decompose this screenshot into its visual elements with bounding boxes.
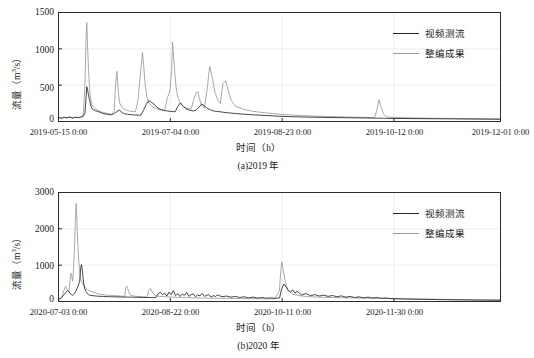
x-tick-b-3: 2020-11-30 0:00 [341, 307, 448, 317]
chart-panel-2019: 流量（m3/s） 1500 1000 500 0 视频测流 整编成果 2019-… [0, 0, 517, 178]
legend-item-video-a: 视频测流 [393, 26, 465, 40]
legend-2019: 视频测流 整编成果 [393, 26, 465, 60]
legend-2020: 视频测流 整编成果 [393, 206, 465, 240]
legend-item-video-b: 视频测流 [393, 206, 465, 220]
caption-2020: (b)2020 年 [0, 338, 517, 352]
caption-2019: (a)2019 年 [0, 158, 517, 172]
x-tick-a-3: 2019-10-12 0:00 [341, 127, 448, 137]
x-axis-label-a: 时间（h） [0, 140, 517, 154]
legend-item-compiled-b: 整编成果 [393, 226, 465, 240]
x-tick-b-0: 2020-07-03 0:00 [5, 307, 112, 317]
x-tick-b-1: 2020-08-22 0:00 [117, 307, 224, 317]
x-axis-label-b: 时间（h） [0, 320, 517, 334]
x-tick-a-4: 2019-12-01 0:00 [447, 127, 534, 137]
legend-swatch-compiled-b [393, 233, 419, 234]
chart-panel-2020: 流量（m3/s） 3000 2000 1000 0 视频测流 整编成果 2020… [0, 178, 517, 358]
x-tick-a-1: 2019-07-04 0:00 [117, 127, 224, 137]
legend-label-video-a: 视频测流 [425, 26, 465, 40]
x-tick-a-2: 2019-08-23 0:00 [229, 127, 336, 137]
x-tick-a-0: 2019-05-15 0:00 [5, 127, 112, 137]
legend-label-compiled-a: 整编成果 [425, 46, 465, 60]
legend-swatch-compiled-a [393, 53, 419, 54]
legend-label-video-b: 视频测流 [425, 206, 465, 220]
legend-label-compiled-b: 整编成果 [425, 226, 465, 240]
legend-swatch-video-b [393, 213, 419, 214]
legend-swatch-video-a [393, 33, 419, 34]
legend-item-compiled-a: 整编成果 [393, 46, 465, 60]
x-tick-b-2: 2020-10-11 0:00 [229, 307, 336, 317]
